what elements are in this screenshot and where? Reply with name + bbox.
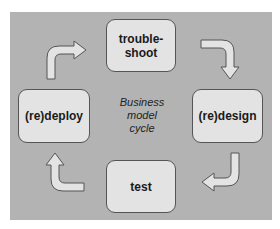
arrow-redesign-to-test-icon [202,153,239,191]
cycle-arrows [0,0,280,229]
arrow-test-to-redeploy-icon [46,153,84,191]
arrow-troubleshoot-to-redesign-icon [201,40,239,79]
arrow-redeploy-to-troubleshoot-icon [47,41,86,79]
